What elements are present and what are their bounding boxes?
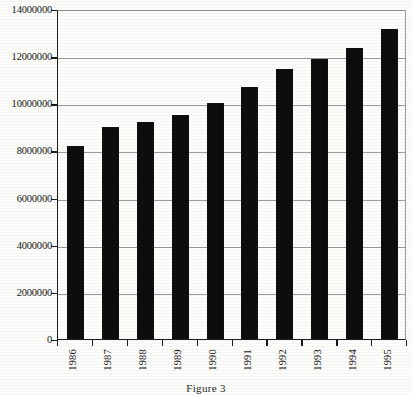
x-axis-tick	[301, 340, 302, 346]
x-axis: 1986198719881989199019911992199319941995	[0, 340, 412, 386]
figure-caption: Figure 3	[0, 382, 412, 395]
x-axis-tick-label: 1988	[138, 349, 149, 371]
plot-area	[57, 10, 406, 340]
y-axis-tick-label: 6000000	[17, 194, 52, 205]
bar	[137, 122, 154, 339]
y-axis-tick-label: 12000000	[12, 52, 52, 63]
x-axis-tick	[406, 340, 407, 346]
x-axis-tick	[232, 340, 233, 346]
x-axis-tick	[57, 340, 58, 346]
x-axis-tick-label: 1991	[243, 349, 254, 371]
y-axis: 0200000040000006000000800000010000000120…	[0, 0, 52, 395]
y-axis-tick-label: 14000000	[12, 5, 52, 16]
bar	[207, 103, 224, 339]
x-axis-tick-label: 1992	[278, 349, 289, 371]
bar	[346, 48, 363, 339]
x-axis-tick	[336, 340, 337, 346]
x-axis-tick	[162, 340, 163, 346]
x-axis-tick	[266, 340, 267, 346]
bar	[241, 87, 258, 339]
x-axis-tick-label: 1986	[68, 349, 79, 371]
y-axis-tick-label: 10000000	[12, 99, 52, 110]
x-axis-tick-label: 1994	[348, 349, 359, 371]
x-axis-tick	[92, 340, 93, 346]
x-axis-tick	[127, 340, 128, 346]
bar	[311, 59, 328, 340]
bar	[276, 69, 293, 339]
bar	[102, 127, 119, 339]
x-axis-tick-label: 1987	[103, 349, 114, 371]
x-axis-tick	[197, 340, 198, 346]
bar	[381, 29, 398, 339]
x-axis-tick-label: 1989	[173, 349, 184, 371]
bar	[67, 146, 84, 339]
y-axis-tick-label: 4000000	[17, 241, 52, 252]
x-axis-tick	[371, 340, 372, 346]
x-axis-tick-label: 1995	[383, 349, 394, 371]
figure-container: 0200000040000006000000800000010000000120…	[0, 0, 412, 395]
x-axis-tick-label: 1990	[208, 349, 219, 371]
y-axis-tick-label: 8000000	[17, 146, 52, 157]
y-axis-tick-label: 2000000	[17, 288, 52, 299]
x-axis-tick-label: 1993	[313, 349, 324, 371]
bar	[172, 115, 189, 339]
